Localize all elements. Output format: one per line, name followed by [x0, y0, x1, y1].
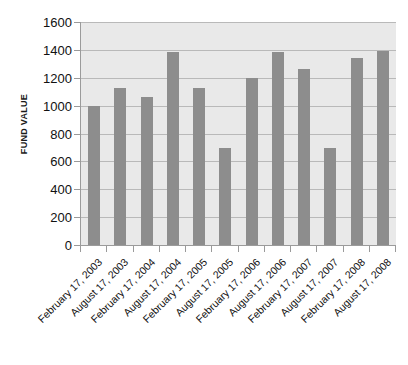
y-axis-tick-mark [74, 161, 80, 162]
y-axis-tick-mark [74, 50, 80, 51]
y-axis-tick-mark [74, 22, 80, 23]
x-axis-tick-labels: February 17, 2003August 17, 2003February… [0, 0, 408, 365]
y-axis-tick-mark [74, 189, 80, 190]
bar-chart: FUND VALUE 02004006008001000120014001600… [0, 0, 408, 365]
y-axis-tick-mark [74, 217, 80, 218]
y-axis-tick-mark [74, 245, 80, 246]
y-axis-tick-mark [74, 134, 80, 135]
y-axis-tick-mark [74, 106, 80, 107]
y-axis-tick-mark [74, 78, 80, 79]
